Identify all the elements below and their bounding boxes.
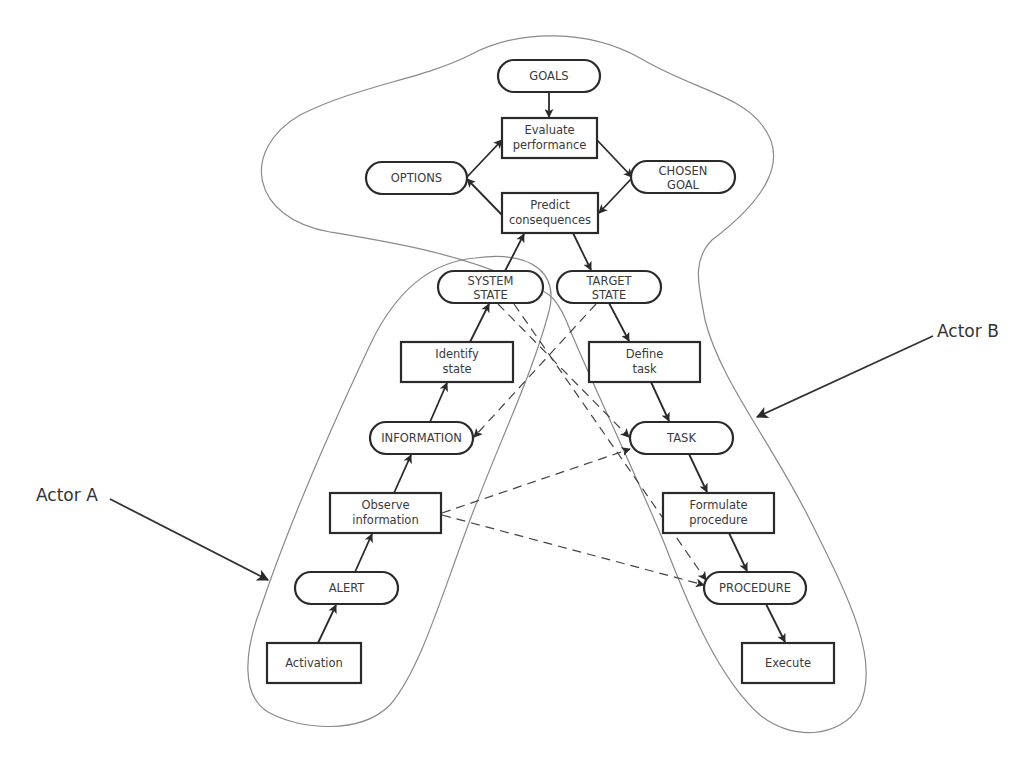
node-predict-consequences: Predict consequences (502, 193, 598, 233)
flow-alert-to-observe (355, 534, 372, 572)
flow-procedure-to-execute (766, 604, 785, 642)
actor-b-label: Actor B (937, 321, 999, 341)
svg-text:information: information (352, 513, 418, 527)
node-activation: Activation (267, 643, 361, 683)
svg-text:GOALS: GOALS (529, 69, 568, 83)
decision-ladder-diagram: Actor A Actor B GOALS (0, 0, 1029, 763)
node-formulate-procedure: Formulate procedure (663, 493, 774, 533)
svg-text:TARGET: TARGET (585, 274, 632, 288)
actor-a-pointer-arrow (110, 499, 268, 580)
svg-text:ALERT: ALERT (329, 581, 366, 595)
node-alert: ALERT (295, 572, 398, 604)
node-procedure: PROCEDURE (704, 572, 806, 604)
svg-text:TASK: TASK (666, 431, 696, 445)
actor-pointers: Actor A Actor B (36, 321, 999, 580)
node-identify-state: Identify state (401, 342, 513, 382)
actor-b-pointer-arrow (757, 336, 933, 417)
flow-information-to-identify (430, 383, 447, 422)
flow-evaluate-to-chosen-goal (597, 140, 632, 177)
svg-text:OPTIONS: OPTIONS (391, 171, 442, 185)
svg-text:CHOSEN: CHOSEN (659, 164, 708, 178)
nodes: GOALS Evaluate performance OPTIONS CHOSE… (267, 60, 834, 683)
actor-a-label: Actor A (36, 485, 98, 505)
svg-text:Predict: Predict (530, 198, 570, 212)
svg-text:Define: Define (626, 347, 664, 361)
svg-text:GOAL: GOAL (667, 178, 700, 192)
flow-task-to-formulate (689, 454, 707, 492)
node-options: OPTIONS (366, 162, 467, 194)
node-task: TASK (630, 422, 733, 454)
node-chosen-goal: CHOSEN GOAL (631, 161, 735, 193)
flow-system-state-to-predict (505, 234, 524, 271)
flow-activation-to-alert (318, 605, 336, 643)
svg-text:state: state (442, 362, 471, 376)
flow-observe-to-information (394, 455, 411, 493)
svg-text:STATE: STATE (592, 288, 627, 302)
node-information: INFORMATION (370, 422, 473, 454)
svg-text:PROCEDURE: PROCEDURE (719, 581, 791, 595)
svg-text:performance: performance (513, 138, 587, 152)
node-execute: Execute (742, 643, 834, 683)
svg-text:INFORMATION: INFORMATION (381, 431, 462, 445)
svg-text:Identify: Identify (435, 347, 479, 361)
flow-predict-to-target-state (573, 233, 591, 270)
node-observe-information: Observe information (330, 493, 441, 533)
svg-text:Evaluate: Evaluate (524, 123, 574, 137)
flow-options-to-evaluate (467, 140, 502, 177)
svg-text:Execute: Execute (765, 656, 811, 670)
flow-target-state-to-define (609, 303, 629, 341)
flow-chosen-goal-to-predict (599, 178, 632, 213)
node-evaluate-performance: Evaluate performance (502, 118, 597, 158)
svg-text:consequences: consequences (509, 213, 591, 227)
svg-text:task: task (632, 362, 657, 376)
dashed-link-observe-to-task (442, 449, 630, 513)
flow-identify-to-system-state (470, 304, 489, 342)
svg-text:procedure: procedure (689, 513, 747, 527)
flow-define-to-task (651, 382, 669, 421)
node-target-state: TARGET STATE (557, 271, 661, 303)
flow-formulate-to-procedure (729, 533, 747, 571)
svg-text:STATE: STATE (473, 288, 508, 302)
node-goals: GOALS (498, 60, 600, 92)
svg-text:Formulate: Formulate (689, 498, 747, 512)
svg-text:SYSTEM: SYSTEM (468, 274, 514, 288)
svg-text:Observe: Observe (361, 498, 409, 512)
svg-text:Activation: Activation (285, 656, 343, 670)
flow-predict-to-options (467, 179, 502, 215)
node-system-state: SYSTEM STATE (438, 271, 543, 303)
node-define-task: Define task (589, 342, 700, 382)
